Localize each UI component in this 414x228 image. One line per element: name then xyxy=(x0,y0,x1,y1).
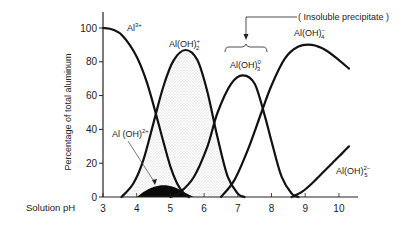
label-aloh4: Al(OH)−4 xyxy=(294,27,326,40)
x-tick-label: 9 xyxy=(302,203,308,214)
y-tick-label: 80 xyxy=(86,56,98,67)
x-axis-title: Solution pH xyxy=(26,202,75,213)
label-aloh-2plus: Al (OH)2+ xyxy=(112,128,149,139)
label-aloh3: Al(OH)03 xyxy=(230,59,262,72)
x-tick-label: 3 xyxy=(100,203,106,214)
x-tick-label: 7 xyxy=(235,203,241,214)
y-tick-label: 20 xyxy=(86,158,98,169)
insoluble-arrow xyxy=(246,17,297,36)
y-ticks: 020406080100 xyxy=(80,23,103,203)
aluminum-speciation-chart: 020406080100 345678910 Percentage of tot… xyxy=(0,0,414,228)
species-curves xyxy=(103,28,349,197)
x-tick-label: 8 xyxy=(269,203,275,214)
label-aloh5: Al(OH)2−5 xyxy=(336,165,371,178)
label-al3: Al3+ xyxy=(127,22,142,33)
insoluble-precipitate-note: ( Insoluble precipitate ) xyxy=(298,12,389,22)
brace-icon xyxy=(225,44,267,52)
x-tick-label: 10 xyxy=(333,203,345,214)
arrow-head-icon xyxy=(244,34,249,40)
y-tick-label: 100 xyxy=(80,23,97,34)
y-tick-label: 60 xyxy=(86,90,98,101)
x-tick-label: 4 xyxy=(134,203,140,214)
y-tick-label: 40 xyxy=(86,124,98,135)
x-tick-label: 6 xyxy=(201,203,207,214)
y-tick-label: 0 xyxy=(91,192,97,203)
x-tick-label: 5 xyxy=(168,203,174,214)
y-axis-title: Percentage of total aluminum xyxy=(63,53,73,170)
